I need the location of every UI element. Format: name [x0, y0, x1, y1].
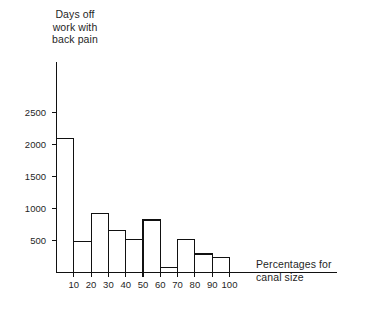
bar-series — [57, 138, 230, 272]
histogram-bar — [160, 267, 177, 272]
y-tick-label: 1500 — [4, 171, 46, 182]
histogram-bar — [91, 214, 108, 273]
y-tick-label: 500 — [4, 235, 46, 246]
y-tick-label: 2000 — [4, 139, 46, 150]
y-axis-title: Days off work with back pain — [33, 8, 117, 46]
histogram-bar — [212, 258, 229, 273]
histogram-bar — [108, 231, 125, 273]
histogram-bar — [178, 240, 195, 273]
x-tick-label: 100 — [218, 279, 242, 290]
histogram-bar — [57, 138, 74, 272]
histogram-figure: Days off work with back pain Percentages… — [0, 0, 382, 309]
y-tick-label: 1000 — [4, 203, 46, 214]
y-tick-label: 2500 — [4, 107, 46, 118]
histogram-bar — [74, 242, 91, 273]
x-axis-title: Percentages for canal size — [256, 258, 378, 283]
histogram-bar — [143, 220, 160, 272]
histogram-bar — [126, 239, 143, 272]
histogram-bar — [195, 254, 212, 273]
